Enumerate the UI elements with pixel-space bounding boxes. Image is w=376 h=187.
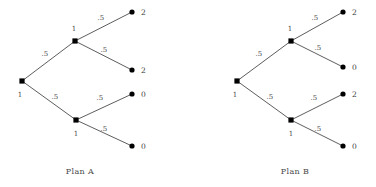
label-edge-root-upper: .5 (42, 50, 49, 58)
leaf-node-3 (129, 91, 134, 96)
node-lower (288, 117, 293, 122)
label-lower-node-probability: 1 (289, 130, 294, 138)
label-edge-leaf-1: .5 (98, 14, 105, 22)
edge-root-to-lower-node (22, 81, 76, 120)
outcome-value-1: 2 (352, 8, 357, 17)
label-edge-root-upper: .5 (256, 50, 263, 58)
edge-lower-node-to-leaf-4 (291, 120, 343, 146)
outcome-value-3: 2 (352, 90, 357, 99)
edge-root-to-upper-node (22, 41, 75, 81)
leaf-node-1 (129, 9, 134, 14)
label-edge-leaf-4: .5 (101, 125, 108, 133)
outcome-value-4: 0 (352, 142, 357, 151)
label-edge-leaf-3: .5 (311, 94, 318, 102)
label-edge-root-lower: .5 (267, 93, 274, 101)
leaf-node-3 (340, 91, 345, 96)
caption-plan-b: Plan B (281, 167, 310, 176)
leaf-node-4 (340, 143, 345, 148)
trees-canvas: 1 .5 .5 1 1 .5 .5 .5 .5 2 2 0 0 (0, 0, 376, 187)
node-lower (73, 117, 78, 122)
label-edge-leaf-1: .5 (312, 14, 319, 22)
tree-plan-a: 1 .5 .5 1 1 .5 .5 .5 .5 2 2 0 0 (18, 8, 146, 151)
label-root-probability: 1 (18, 91, 23, 99)
leaf-node-2 (340, 64, 345, 69)
tree-plan-b: 1 .5 .5 1 1 .5 .5 .5 .5 2 0 2 0 (233, 8, 357, 151)
outcome-value-3: 0 (141, 90, 146, 99)
outcome-value-1: 2 (141, 8, 146, 17)
leaf-node-4 (129, 143, 134, 148)
label-upper-node-probability: 1 (72, 25, 77, 33)
outcome-value-2: 2 (141, 66, 146, 75)
label-lower-node-probability: 1 (74, 130, 79, 138)
edge-root-to-lower-node (237, 81, 291, 120)
node-root (19, 78, 24, 83)
edge-lower-node-to-leaf-4 (76, 120, 132, 146)
leaf-node-1 (340, 9, 345, 14)
decision-tree-figure: 1 .5 .5 1 1 .5 .5 .5 .5 2 2 0 0 (0, 0, 376, 187)
edge-root-to-upper-node (237, 41, 291, 81)
edge-lower-node-to-leaf-3 (76, 94, 132, 120)
label-edge-leaf-4: .5 (315, 125, 322, 133)
node-upper (288, 38, 293, 43)
caption-plan-a: Plan A (66, 167, 95, 176)
node-upper (72, 38, 77, 43)
leaf-node-2 (129, 67, 134, 72)
label-root-probability: 1 (233, 91, 238, 99)
label-edge-root-lower: .5 (52, 93, 59, 101)
label-edge-leaf-2: .5 (101, 46, 108, 54)
node-root (234, 78, 239, 83)
outcome-value-2: 0 (352, 63, 357, 72)
label-edge-leaf-3: .5 (97, 94, 104, 102)
outcome-value-4: 0 (141, 142, 146, 151)
label-edge-leaf-2: .5 (315, 44, 322, 52)
label-upper-node-probability: 1 (288, 25, 293, 33)
